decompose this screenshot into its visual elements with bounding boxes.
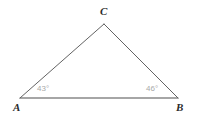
vertex-label-c: C <box>100 6 107 17</box>
vertex-label-b: B <box>176 102 183 113</box>
vertex-label-a: A <box>13 102 20 113</box>
geometry-figure: C A B 43° 46° <box>0 0 198 119</box>
angle-measure-label-a: 43° <box>37 85 49 93</box>
side-ac-line <box>20 24 104 98</box>
triangle-shape <box>0 0 198 119</box>
side-cb-line <box>104 24 178 98</box>
angle-measure-label-b: 46° <box>146 85 158 93</box>
